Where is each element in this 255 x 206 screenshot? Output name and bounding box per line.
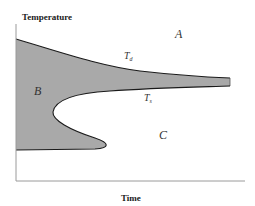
x-axis-label: Time [121,193,141,203]
region-b-label: B [34,84,41,99]
upper-curve-subscript: d [130,56,133,62]
lower-curve-subscript: s [150,98,152,104]
upper-curve-label: Td [124,50,133,62]
y-axis-label: Temperature [22,12,72,22]
region-c-label: C [159,128,167,143]
phase-diagram: Temperature Time A B C Td Ts [0,0,255,206]
diagram-graphic [0,0,255,206]
region-b-shape [16,39,230,150]
region-a-label: A [175,27,182,42]
lower-curve-label: Ts [144,92,152,104]
